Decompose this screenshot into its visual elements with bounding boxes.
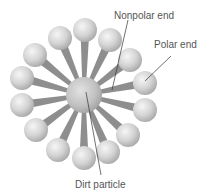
label-nonpolar-end: Nonpolar end xyxy=(114,10,174,21)
polar-head xyxy=(73,18,97,42)
polar-head xyxy=(24,118,48,142)
polar-head xyxy=(23,43,47,67)
polar-head xyxy=(10,66,34,90)
polar-head xyxy=(46,138,70,162)
label-polar-end: Polar end xyxy=(154,39,197,50)
polar-head xyxy=(98,28,122,52)
micelle-diagram xyxy=(0,0,209,195)
polar-head xyxy=(116,123,140,147)
polar-head xyxy=(48,26,72,50)
polar-head xyxy=(133,98,157,122)
polar-leader-line xyxy=(145,56,171,81)
dirt-particle xyxy=(66,77,102,113)
polar-head xyxy=(10,93,34,117)
polar-head xyxy=(72,146,96,170)
polar-head xyxy=(118,48,142,72)
label-dirt-particle: Dirt particle xyxy=(75,179,126,190)
polar-head xyxy=(133,71,157,95)
polar-head xyxy=(96,140,120,164)
